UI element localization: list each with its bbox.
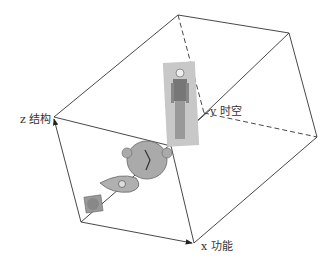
- z-axis-label: z 结构: [20, 110, 51, 126]
- human-body-image: [163, 61, 199, 147]
- hidden-edges: [178, 15, 317, 137]
- tissue-image: [100, 176, 139, 192]
- x-axis-label: x 功能: [201, 237, 233, 253]
- y-axis-label: y 时空: [210, 102, 242, 118]
- cell-image: [84, 195, 103, 213]
- organ-image: [122, 141, 172, 179]
- box-diagram: [0, 0, 332, 263]
